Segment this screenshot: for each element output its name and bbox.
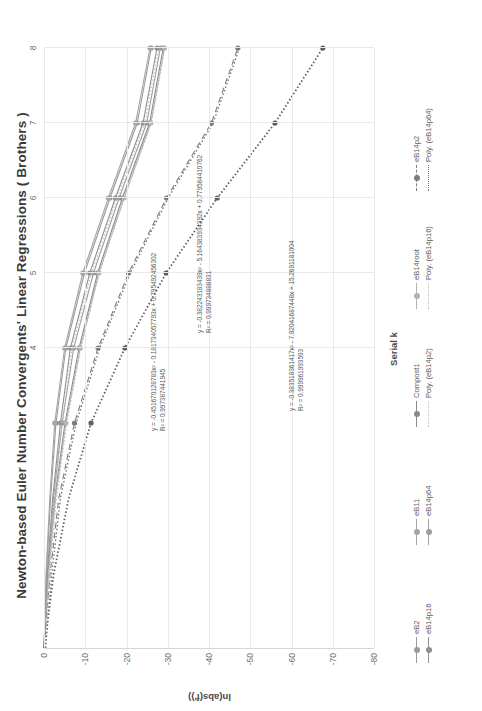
legend-item-label: eB14p64 — [424, 486, 433, 516]
legend-item-eb14root[interactable]: eB14root — [412, 191, 421, 309]
legend-item-poly-eb14p2[interactable]: Poly. (eB14p2) — [424, 309, 433, 427]
legend-item-eb11[interactable]: eB11 — [412, 427, 421, 545]
legend-item-label: eB11 — [412, 499, 421, 516]
y-gridline — [250, 48, 251, 648]
chart-figure: Newton-based Euler Number Convergents' L… — [0, 0, 482, 711]
legend-item-eb14p64[interactable]: eB14p64 — [424, 427, 433, 545]
annotation-equation-1: y = -0.451670128783x² - 0.181734057793x … — [150, 253, 168, 431]
y-axis-tick-label: -30 — [163, 653, 173, 693]
legend-item-poly-eb14p16[interactable]: Poly. (eB14p16) — [424, 191, 433, 309]
legend-key-icon — [424, 165, 433, 191]
legend-key-icon — [412, 637, 421, 663]
y-gridline — [209, 48, 210, 648]
y-gridline — [44, 48, 45, 648]
y-axis-tick-label: -80 — [369, 653, 379, 693]
legend-line-icon — [428, 165, 429, 191]
annotation-equation-3: y = -0.383518361417x² - 7.92041687448x +… — [288, 241, 306, 411]
legend-marker-icon — [426, 529, 432, 535]
equation-text-3: y = -0.383518361417x² - 7.92041687448x +… — [288, 241, 295, 411]
y-axis-tick-label: -50 — [245, 653, 255, 693]
data-point-marker — [72, 420, 77, 425]
equation-text-2: y = -0.382243183439x² - 5.164383934392x … — [196, 155, 203, 333]
y-gridline — [127, 48, 128, 648]
y-axis-tick-label: 0 — [39, 653, 49, 693]
chart-legend: eB2eB11Compost1eB14rooteB14p2eB14p16eB14… — [412, 43, 433, 663]
annotation-equation-2: y = -0.382243183439x² - 5.164383934392x … — [196, 155, 214, 333]
y-axis-label: ln(abs(f')) — [44, 691, 374, 705]
legend-item-compost1[interactable]: Compost1 — [412, 309, 421, 427]
legend-item-label: Poly. (eB14p16) — [424, 226, 433, 280]
legend-item-eb14p16[interactable]: eB14p16 — [424, 545, 433, 663]
y-gridline — [168, 48, 169, 648]
legend-line-icon — [428, 401, 429, 427]
legend-key-icon — [412, 165, 421, 191]
legend-item-label: eB2 — [412, 620, 421, 634]
y-gridline — [333, 48, 334, 648]
y-axis-tick-label: -60 — [287, 653, 297, 693]
y-axis-tick-label: -10 — [80, 653, 90, 693]
data-point-marker — [52, 420, 57, 425]
legend-line-icon — [428, 283, 429, 309]
plot-area: 0-10-20-30-40-50-60-70-8045678 — [44, 49, 374, 649]
legend-key-icon — [424, 401, 433, 427]
x-axis-tick-label: 8 — [28, 46, 38, 51]
x-axis-tick-label: 4 — [28, 346, 38, 351]
legend-item-eb14p2[interactable]: eB14p2 — [412, 73, 421, 191]
r-squared-text-2: R² = 0.999734888831 — [205, 155, 214, 333]
legend-marker-icon — [426, 647, 432, 653]
legend-key-icon — [424, 637, 433, 663]
legend-key-icon — [412, 401, 421, 427]
legend-item-eb2[interactable]: eB2 — [412, 545, 421, 663]
legend-key-icon — [412, 519, 421, 545]
x-gridline — [44, 122, 374, 123]
legend-key-icon — [412, 283, 421, 309]
legend-marker-icon — [414, 175, 420, 181]
x-gridline — [44, 347, 374, 348]
x-axis-tick-label: 7 — [28, 121, 38, 126]
y-axis-tick-label: -20 — [122, 653, 132, 693]
legend-item-label: Compost1 — [412, 363, 421, 398]
legend-marker-icon — [414, 529, 420, 535]
r-squared-text-3: R² = 0.999961993593 — [297, 241, 306, 411]
legend-marker-icon — [414, 647, 420, 653]
legend-marker-icon — [414, 293, 420, 299]
equation-text-1: y = -0.451670128783x² - 0.181734057793x … — [150, 253, 157, 431]
y-axis-tick-label: -70 — [328, 653, 338, 693]
data-point-marker — [63, 420, 68, 425]
rotated-figure-wrapper: Newton-based Euler Number Convergents' L… — [0, 0, 482, 711]
x-axis-tick-label: 6 — [28, 196, 38, 201]
x-axis-tick-label: 5 — [28, 271, 38, 276]
legend-item-label: eB14p2 — [412, 136, 421, 162]
legend-marker-icon — [414, 411, 420, 417]
y-gridline — [374, 48, 375, 648]
x-axis-label: Serial k — [388, 49, 399, 649]
legend-key-icon — [424, 283, 433, 309]
legend-key-icon — [424, 519, 433, 545]
data-point-marker — [88, 420, 93, 425]
legend-item-label: eB14p16 — [424, 604, 433, 634]
legend-item-label: Poly. (eB14p64) — [424, 108, 433, 162]
legend-item-poly-eb14p64[interactable]: Poly. (eB14p64) — [424, 73, 433, 191]
y-axis-label-text: ln(abs(f')) — [188, 692, 231, 703]
r-squared-text-1: R² = 0.997387441945 — [159, 253, 168, 431]
y-axis-tick-label: -40 — [204, 653, 214, 693]
x-gridline — [44, 47, 374, 48]
chart-title: Newton-based Euler Number Convergents' L… — [14, 0, 29, 711]
legend-item-label: eB14root — [412, 249, 421, 280]
series-line-eB14p64 — [44, 48, 160, 648]
y-gridline — [85, 48, 86, 648]
legend-item-label: Poly. (eB14p2) — [424, 348, 433, 398]
